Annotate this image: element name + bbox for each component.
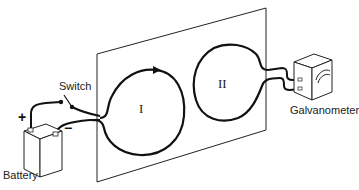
switch-lever: [64, 95, 72, 107]
positive-terminal-sign: +: [18, 109, 26, 125]
switch-label: Switch: [59, 80, 91, 92]
wire-negative-to-loop: [56, 120, 100, 132]
switch-contact-1: [59, 100, 63, 104]
loop-2-label: II: [218, 76, 227, 92]
battery-label: Battery: [3, 169, 38, 181]
loop-1-label: I: [139, 101, 143, 117]
galvanometer-label: Galvanometer: [290, 104, 359, 116]
wire-switch-to-loop: [72, 107, 100, 116]
negative-terminal-sign: −: [64, 120, 72, 136]
galvanometer-icon: [294, 54, 332, 100]
